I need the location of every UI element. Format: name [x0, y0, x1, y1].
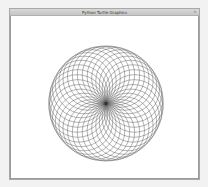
window-titlebar[interactable]: Python Turtle Graphics × [10, 9, 199, 16]
window-title: Python Turtle Graphics [10, 9, 199, 16]
turtle-canvas-frame[interactable] [10, 16, 199, 179]
close-icon[interactable]: × [193, 10, 197, 14]
turtle-cursor-icon [105, 102, 108, 105]
desktop-background: Python Turtle Graphics × [0, 0, 208, 187]
turtle-graphics-window: Python Turtle Graphics × [9, 8, 200, 180]
spirograph-drawing [11, 16, 198, 178]
